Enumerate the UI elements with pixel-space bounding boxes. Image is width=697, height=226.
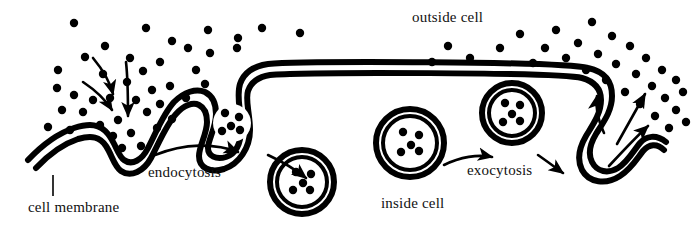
particle-outside-right — [541, 44, 549, 52]
particle-outside-left — [114, 116, 122, 124]
particle-outside-left — [192, 66, 200, 74]
vesicle-cargo-particle — [501, 99, 509, 107]
particle-outside-right — [529, 59, 537, 67]
particle-outside-right — [679, 88, 687, 96]
particle-outside-left — [126, 54, 134, 62]
particle-outside-left — [143, 108, 151, 116]
label-endocytosis: endocytosis — [148, 165, 221, 180]
particle-outside-right — [642, 54, 650, 62]
vesicle-cargo-particle — [299, 179, 307, 187]
particle-outside-left — [96, 121, 104, 129]
particle-outside-right — [665, 124, 673, 132]
particle-outside-left — [66, 126, 74, 134]
particle-outside-left — [137, 142, 145, 150]
fusing-vesicle — [482, 83, 542, 143]
particle-outside-right — [582, 66, 590, 74]
vesicle-cargo-particle — [397, 148, 405, 156]
label-cell-membrane: cell membrane — [28, 200, 119, 215]
label-outside-cell: outside cell — [412, 10, 483, 25]
vesicle-cargo-particle — [306, 186, 314, 194]
vesicle-cargo-particle — [236, 126, 244, 134]
particle-outside-left — [101, 42, 109, 50]
particle-outside-right — [428, 58, 436, 66]
particle-outside-left — [233, 44, 241, 52]
particle-outside-right — [648, 82, 656, 90]
vesicle-cargo-particle — [218, 127, 226, 135]
particle-outside-right — [626, 42, 634, 50]
particle-outside-right — [602, 76, 610, 84]
particle-outside-right — [661, 94, 669, 102]
particle-outside-right — [612, 60, 620, 68]
particle-outside-left — [142, 24, 150, 32]
particle-outside-right — [651, 112, 659, 120]
vesicle-group — [213, 83, 542, 214]
vesicle-cargo-particle — [235, 113, 243, 121]
particle-outside-left — [156, 100, 164, 108]
particle-outside-left — [168, 37, 176, 45]
particle-outside-left — [53, 84, 61, 92]
vesicle-cargo-particle — [221, 109, 229, 117]
particle-outside-left — [201, 80, 209, 88]
label-inside-cell: inside cell — [381, 196, 444, 211]
vesicle-cargo-particle — [415, 131, 423, 139]
particle-outside-left — [153, 124, 161, 132]
particle-outside-right — [496, 44, 504, 52]
particle-outside-right — [594, 50, 602, 58]
particle-outside-left — [182, 94, 190, 102]
particle-outside-right — [516, 30, 524, 38]
vesicle-cargo-particle — [307, 170, 315, 178]
particle-outside-right — [682, 118, 690, 126]
vesicle-cargo-particle — [415, 147, 423, 155]
release-arrow-2 — [617, 94, 645, 144]
particle-outside-left — [206, 49, 214, 57]
particle-outside-left — [70, 91, 78, 99]
vesicle-cargo-particle — [508, 110, 516, 118]
particle-outside-right — [574, 39, 582, 47]
particle-outside-right — [552, 26, 560, 34]
particle-outside-right — [632, 70, 640, 78]
particle-outside-left — [234, 34, 242, 42]
free-vesicle-right — [376, 109, 444, 177]
diagram-canvas — [0, 0, 697, 226]
particle-outside-left — [127, 129, 135, 137]
particle-outside-left — [204, 26, 212, 34]
vesicle-cargo-particle — [289, 186, 297, 194]
particle-outside-right — [466, 54, 474, 62]
particle-outside-left — [70, 19, 78, 27]
particle-outside-left — [156, 58, 164, 66]
particle-outside-right — [672, 76, 680, 84]
vesicle-cargo-particle — [399, 128, 407, 136]
particle-outside-left — [81, 53, 89, 61]
particle-outside-left — [258, 24, 266, 32]
label-exocytosis: exocytosis — [467, 163, 532, 178]
budding-vesicle — [213, 104, 251, 142]
particle-outside-left — [184, 44, 192, 52]
particle-outside-left — [109, 132, 117, 140]
particle-outside-left — [58, 106, 66, 114]
vesicle-cargo-particle — [516, 101, 524, 109]
particle-outside-left — [168, 115, 176, 123]
vesicle-cargo-particle — [407, 141, 415, 149]
particle-outside-left — [54, 66, 62, 74]
particle-outside-left — [89, 96, 97, 104]
particle-outside-left — [44, 123, 52, 131]
endocytosis-exocytosis-diagram: outside cell inside cell endocytosis exo… — [0, 0, 697, 226]
particle-outside-right — [608, 32, 616, 40]
vesicle-cargo-particle — [516, 117, 524, 125]
particle-outside-right — [672, 106, 680, 114]
particle-outside-right — [588, 18, 596, 26]
particle-outside-left — [79, 108, 87, 116]
particle-outside-left — [296, 29, 304, 37]
particle-outside-right — [444, 42, 452, 50]
particle-outside-right — [658, 66, 666, 74]
vesicle-cargo-particle — [499, 118, 507, 126]
particle-outside-right — [621, 88, 629, 96]
intake-arrow-3 — [126, 62, 128, 116]
vesicle-cargo-particle — [227, 122, 235, 130]
particle-outside-right — [562, 54, 570, 62]
exocytosis-arrow-curved — [538, 155, 563, 173]
particle-outside-left — [166, 82, 174, 90]
particle-outside-left — [118, 144, 126, 152]
particle-outside-left — [148, 86, 156, 94]
particle-outside-left — [139, 67, 147, 75]
